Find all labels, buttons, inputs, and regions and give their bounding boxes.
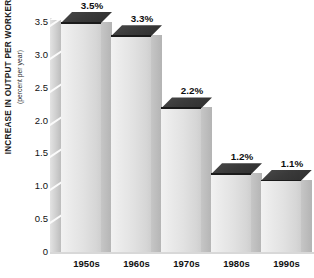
wall-tick-mark [50,181,61,192]
bar-value-label-1950s: 3.5% [66,0,118,11]
bar-1980s [211,173,251,252]
bar-1960s [111,35,151,252]
y-tick-3.5: 3.5 [22,17,48,27]
bar-front-face [161,107,201,252]
y-tick-1.0: 1.0 [22,181,48,191]
bar-1950s [61,22,101,252]
bar-value-label-1980s: 1.2% [216,151,268,162]
bar-value-label-1970s: 2.2% [166,85,218,96]
x-tick-1990s: 1990s [258,258,314,269]
x-tick-1980s: 1980s [208,258,265,269]
y-tick-3.0: 3.0 [22,50,48,60]
bar-front-face [61,22,101,252]
y-axis-tick-labels: 00.51.01.52.02.53.03.5 [22,0,48,278]
y-tick-0: 0 [22,247,48,257]
bar-value-label-1960s: 3.3% [116,13,168,24]
baseline-floor [50,252,314,254]
bar-top-edge [61,22,101,24]
y-axis-title: INCREASE IN OUTPUT PER WORKER [4,0,14,154]
x-axis-tick-labels: 1950s1960s1970s1980s1990s [50,256,314,276]
axis-wall [50,18,61,254]
bar-chart: INCREASE IN OUTPUT PER WORKER (percent p… [0,0,314,278]
bar-front-face [111,35,151,252]
bar-1970s [161,107,201,252]
bar-front-face [211,173,251,252]
bar-front-face [261,180,301,252]
bar-side-face [301,180,312,252]
wall-tick-mark [50,50,61,61]
wall-tick-mark [50,82,61,93]
y-tick-2.0: 2.0 [22,116,48,126]
y-tick-2.5: 2.5 [22,83,48,93]
y-tick-1.5: 1.5 [22,148,48,158]
x-tick-1950s: 1950s [58,258,115,269]
bar-top-edge [161,107,201,109]
bar-top-edge [111,35,151,37]
bar-top-edge [261,180,301,182]
wall-tick-mark [50,148,61,159]
bar-1990s [261,180,301,252]
plot-area: 3.5%3.3%2.2%1.2%1.1% [50,0,314,254]
axis-wall-cap [50,10,61,20]
bar-top-edge [211,173,251,175]
wall-tick-mark [50,214,61,225]
x-tick-1970s: 1970s [158,258,215,269]
x-tick-1960s: 1960s [108,258,165,269]
wall-tick-mark [50,115,61,126]
bar-value-label-1990s: 1.1% [266,158,314,169]
y-tick-0.5: 0.5 [22,214,48,224]
